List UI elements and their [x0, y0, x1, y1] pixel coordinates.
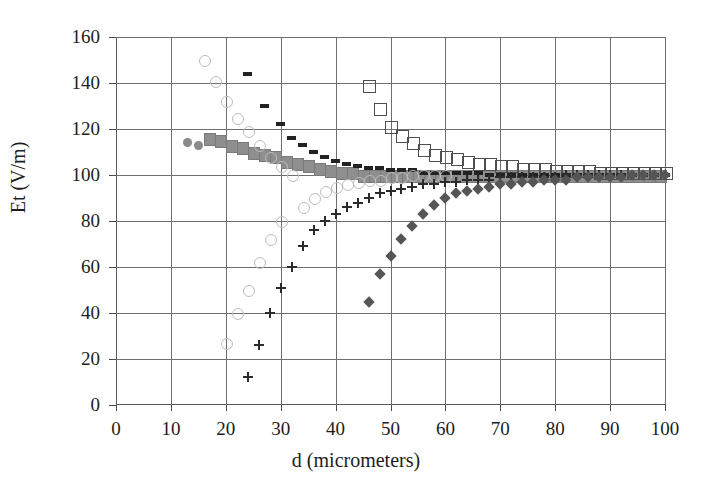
x-tick-mark — [665, 405, 666, 411]
x-tick-mark — [116, 405, 117, 411]
data-point-plus — [429, 179, 439, 189]
plus-horizontal-bar — [616, 174, 626, 176]
data-point-plus — [407, 182, 417, 192]
y-tick-label: 160 — [40, 27, 100, 46]
plus-vertical-bar — [543, 172, 545, 182]
plus-horizontal-bar — [364, 197, 374, 199]
gridline-vertical — [281, 37, 282, 405]
plus-horizontal-bar — [287, 266, 297, 268]
plus-horizontal-bar — [627, 174, 637, 176]
plus-vertical-bar — [335, 209, 337, 219]
plus-horizontal-bar — [484, 179, 494, 181]
data-point-plus — [287, 262, 297, 272]
plus-vertical-bar — [620, 170, 622, 180]
plus-horizontal-bar — [660, 174, 670, 176]
plus-horizontal-bar — [353, 202, 363, 204]
plus-horizontal-bar — [638, 174, 648, 176]
x-tick-mark — [445, 405, 446, 411]
y-tick-mark — [109, 359, 116, 360]
data-point-plus — [396, 184, 406, 194]
data-point-plus — [364, 193, 374, 203]
data-point-plus — [331, 209, 341, 219]
plus-horizontal-bar — [583, 174, 593, 176]
plus-vertical-bar — [631, 170, 633, 180]
gridline-vertical — [171, 37, 172, 405]
gridline-vertical — [555, 37, 556, 405]
y-tick-mark — [109, 37, 116, 38]
x-tick-label: 40 — [306, 419, 366, 438]
y-tick-label: 80 — [40, 211, 100, 230]
plus-vertical-bar — [598, 170, 600, 180]
gridline-vertical — [500, 37, 501, 405]
plus-vertical-bar — [444, 177, 446, 187]
gridline-vertical — [665, 37, 666, 405]
y-tick-mark — [109, 129, 116, 130]
data-point-plus — [484, 175, 494, 185]
data-point-plus — [539, 172, 549, 182]
x-tick-label: 60 — [415, 419, 475, 438]
plus-horizontal-bar — [440, 181, 450, 183]
y-tick-label: 60 — [40, 257, 100, 276]
plus-horizontal-bar — [605, 174, 615, 176]
data-point-plus — [506, 172, 516, 182]
y-tick-label: 140 — [40, 73, 100, 92]
plus-horizontal-bar — [418, 183, 428, 185]
plus-horizontal-bar — [396, 188, 406, 190]
plus-horizontal-bar — [407, 186, 417, 188]
gridline-vertical — [445, 37, 446, 405]
data-point-plus — [495, 172, 505, 182]
plus-vertical-bar — [368, 193, 370, 203]
plus-vertical-bar — [269, 308, 271, 318]
plus-horizontal-bar — [572, 174, 582, 176]
x-tick-label: 50 — [361, 419, 421, 438]
data-point-plus — [276, 283, 286, 293]
data-point-plus — [627, 170, 637, 180]
x-tick-mark — [610, 405, 611, 411]
plus-vertical-bar — [379, 188, 381, 198]
data-point-plus — [418, 179, 428, 189]
plus-vertical-bar — [477, 175, 479, 185]
plus-vertical-bar — [324, 216, 326, 226]
plus-vertical-bar — [510, 172, 512, 182]
y-tick-label: 20 — [40, 349, 100, 368]
plus-horizontal-bar — [495, 176, 505, 178]
gridline-vertical — [226, 37, 227, 405]
data-point-plus — [550, 172, 560, 182]
plus-vertical-bar — [346, 202, 348, 212]
chart-figure: 0204060801001201401600102030405060708090… — [0, 0, 712, 488]
x-axis-title: d (micrometers) — [0, 449, 712, 472]
x-tick-mark — [336, 405, 337, 411]
plus-vertical-bar — [258, 340, 260, 350]
plus-horizontal-bar — [550, 176, 560, 178]
data-point-plus — [572, 170, 582, 180]
plus-horizontal-bar — [298, 245, 308, 247]
plus-vertical-bar — [280, 283, 282, 293]
y-tick-mark — [109, 83, 116, 84]
y-tick-mark — [109, 313, 116, 314]
plus-vertical-bar — [576, 170, 578, 180]
plus-vertical-bar — [390, 186, 392, 196]
plus-vertical-bar — [532, 172, 534, 182]
x-tick-mark — [391, 405, 392, 411]
data-point-plus — [353, 198, 363, 208]
y-tick-label: 120 — [40, 119, 100, 138]
data-point-plus — [473, 175, 483, 185]
data-point-plus — [265, 308, 275, 318]
plus-vertical-bar — [653, 170, 655, 180]
x-tick-label: 20 — [196, 419, 256, 438]
plus-vertical-bar — [499, 172, 501, 182]
data-point-plus — [616, 170, 626, 180]
x-tick-label: 10 — [141, 419, 201, 438]
plus-horizontal-bar — [375, 192, 385, 194]
plus-vertical-bar — [642, 170, 644, 180]
x-tick-mark — [500, 405, 501, 411]
y-axis-title: Et (V/m) — [7, 98, 30, 258]
gridline-vertical — [336, 37, 337, 405]
plus-horizontal-bar — [561, 174, 571, 176]
plus-horizontal-bar — [309, 229, 319, 231]
plus-horizontal-bar — [331, 213, 341, 215]
data-point-plus — [583, 170, 593, 180]
plus-horizontal-bar — [539, 176, 549, 178]
data-point-plus — [660, 170, 670, 180]
x-tick-label: 90 — [580, 419, 640, 438]
